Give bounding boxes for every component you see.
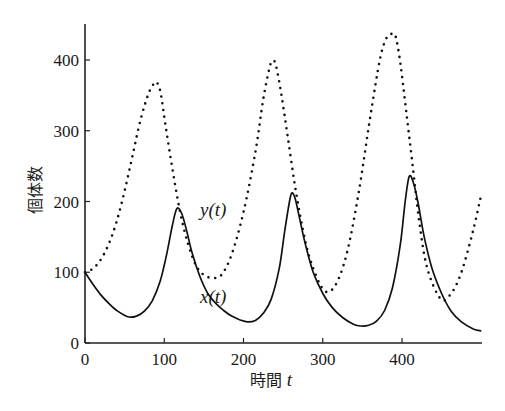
series-label-x: x(t) bbox=[199, 286, 226, 308]
x-tick-label: 0 bbox=[81, 350, 90, 369]
x-tick-label: 300 bbox=[310, 350, 336, 369]
axes bbox=[85, 24, 482, 343]
series-x-line bbox=[85, 176, 481, 331]
x-tick-label: 200 bbox=[231, 350, 257, 369]
x-axis-title: 時間t bbox=[250, 369, 293, 390]
y-tick-label: 200 bbox=[54, 193, 80, 212]
y-axis-title: 個体数 bbox=[26, 166, 45, 214]
y-tick-label: 400 bbox=[54, 51, 80, 70]
series-group bbox=[85, 33, 481, 331]
x-tick-label: 400 bbox=[389, 350, 415, 369]
predator-prey-chart: 0100200300400 0100200300400 y(t) x(t) 時間… bbox=[0, 0, 505, 411]
x-tick-label: 100 bbox=[152, 350, 178, 369]
y-tick-label: 300 bbox=[54, 122, 80, 141]
series-y-line bbox=[85, 33, 481, 300]
y-tick-label: 100 bbox=[54, 263, 80, 282]
series-label-y: y(t) bbox=[198, 199, 226, 221]
y-tick-label: 0 bbox=[71, 334, 80, 353]
